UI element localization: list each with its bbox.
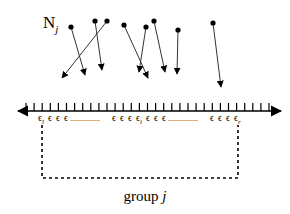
arrow-origin-dot: [68, 24, 73, 29]
epsilon-middle-subscript: i: [140, 118, 142, 126]
epsilon: ϵ: [128, 112, 132, 123]
epsilon: ϵ: [226, 112, 230, 123]
arrow-4: [124, 25, 148, 78]
epsilon: ϵ: [56, 112, 60, 123]
epsilon: ϵ: [146, 112, 150, 123]
epsilon: ϵ: [120, 112, 124, 123]
epsilon: ϵ: [48, 112, 52, 123]
epsilon: ϵ: [210, 112, 214, 123]
arrow-6: [154, 21, 165, 72]
arrow-3: [62, 21, 107, 78]
arrow-origin-dot: [143, 24, 148, 29]
svg-text:ϵi: ϵi: [136, 112, 142, 126]
epsilon-right-subscript: r: [238, 118, 241, 126]
arrow-7: [177, 30, 178, 74]
arrow-8: [213, 23, 221, 87]
svg-text:Nj: Nj: [43, 13, 58, 35]
group-bracket-box: [42, 125, 238, 178]
ellipsis-left: ...............: [70, 114, 100, 123]
epsilon: ϵ: [162, 112, 166, 123]
arrow-origin-dot: [175, 27, 180, 32]
arrow-origin-dot: [92, 18, 97, 23]
set-label: Nj: [43, 13, 58, 35]
diagram-canvas: Nj ϵl ϵ ϵ ϵ ............... ϵ ϵ ϵ ϵi ϵ ϵ…: [0, 0, 290, 214]
svg-text:ϵl: ϵl: [38, 112, 44, 126]
arrow-origin-dot: [121, 22, 126, 27]
epsilon: ϵ: [64, 112, 68, 123]
svg-text:ϵr: ϵr: [234, 112, 241, 126]
epsilon-left-subscript: l: [42, 118, 44, 126]
arrow-origin-dot: [151, 18, 156, 23]
arrows-group: [62, 18, 221, 87]
epsilon: ϵ: [154, 112, 158, 123]
arrow-origin-dot: [104, 18, 109, 23]
arrow-origin-dot: [210, 20, 215, 25]
epsilon-sequence: ϵl ϵ ϵ ϵ ............... ϵ ϵ ϵ ϵi ϵ ϵ ϵ …: [38, 112, 241, 126]
group-label-main: group: [124, 188, 163, 204]
epsilon: ϵ: [218, 112, 222, 123]
epsilon: ϵ: [112, 112, 116, 123]
ellipsis-right: ...............: [168, 114, 198, 123]
set-label-main: N: [43, 13, 55, 32]
group-label: group j: [124, 188, 167, 204]
number-line-axis: [18, 103, 281, 111]
